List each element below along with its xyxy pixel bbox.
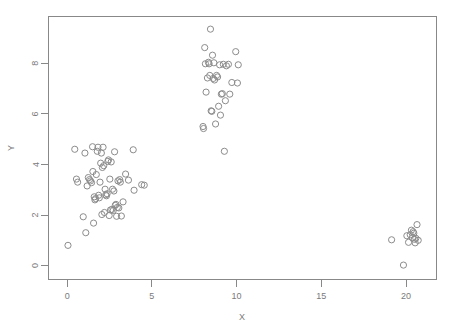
plot-frame (49, 17, 437, 280)
data-point (72, 146, 78, 152)
data-point (90, 220, 96, 226)
data-point (125, 177, 131, 183)
data-point (207, 26, 213, 32)
x-tick-label: 10 (232, 291, 242, 301)
data-point (80, 214, 86, 220)
data-point (131, 187, 137, 193)
data-point (233, 49, 239, 55)
x-tick-label: 20 (401, 291, 411, 301)
x-tick-label: 5 (149, 291, 154, 301)
data-point (107, 176, 113, 182)
y-tick-label: 4 (31, 162, 41, 167)
x-tick-label: 0 (65, 291, 70, 301)
chart-canvas: 05101520 02468 X Y (0, 0, 449, 331)
data-point (98, 150, 104, 156)
data-point (400, 262, 406, 268)
data-point (130, 147, 136, 153)
data-point (203, 89, 209, 95)
data-point (122, 171, 128, 177)
data-point (209, 52, 215, 58)
y-axis-title: Y (6, 145, 16, 151)
data-point (202, 45, 208, 51)
data-point (65, 242, 71, 248)
data-point (120, 199, 126, 205)
x-tick-label: 15 (316, 291, 326, 301)
data-point (217, 112, 223, 118)
y-tick-label: 8 (31, 61, 41, 66)
data-points-group (65, 26, 421, 268)
data-point (222, 98, 228, 104)
data-point (235, 62, 241, 68)
data-point (111, 188, 117, 194)
x-axis-ticks: 05101520 (65, 280, 411, 301)
y-tick-label: 2 (31, 213, 41, 218)
data-point (83, 230, 89, 236)
y-tick-label: 6 (31, 111, 41, 116)
data-point (212, 121, 218, 127)
x-axis-title: X (239, 312, 245, 322)
data-point (221, 148, 227, 154)
y-tick-label: 0 (31, 263, 41, 268)
data-point (227, 91, 233, 97)
data-point (118, 213, 124, 219)
data-point (216, 103, 222, 109)
data-point (389, 237, 395, 243)
data-point (111, 149, 117, 155)
y-axis-ticks: 02468 (31, 61, 49, 268)
data-point (82, 150, 88, 156)
data-point (97, 179, 103, 185)
scatter-plot-figure: 05101520 02468 X Y (0, 0, 449, 331)
data-point (414, 222, 420, 228)
